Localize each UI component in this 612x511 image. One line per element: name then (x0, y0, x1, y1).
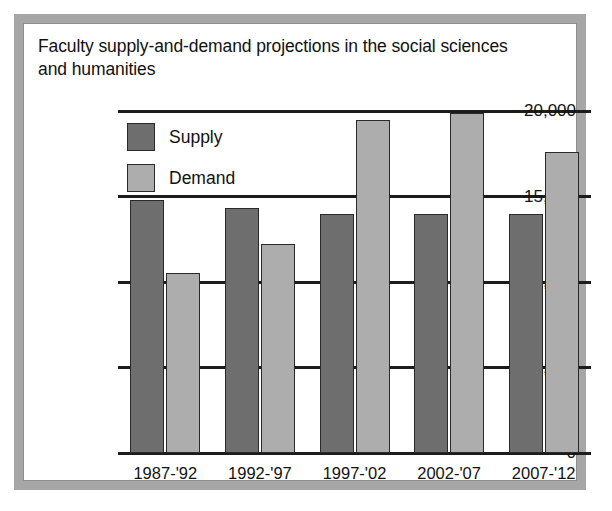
bar-demand-0 (166, 273, 200, 453)
x-axis-tick-label: 2002-'07 (417, 464, 481, 483)
legend-label-demand: Demand (169, 168, 235, 189)
legend-swatch-demand (127, 164, 155, 192)
bar-supply-4 (509, 214, 543, 453)
y-axis-tick-label: 20,000 (494, 101, 576, 121)
chart-legend: SupplyDemand (127, 123, 235, 205)
legend-item-supply: Supply (127, 123, 235, 151)
plot-area: 05,00010,00015,00020,000 1987-'921992-'9… (24, 24, 576, 480)
x-axis-tick-label: 1997-'02 (323, 464, 387, 483)
x-axis-tick-label: 2007-'12 (512, 464, 576, 483)
legend-label-supply: Supply (169, 127, 223, 148)
bar-demand-2 (356, 120, 390, 453)
bar-supply-0 (130, 200, 164, 453)
bar-demand-1 (261, 244, 295, 453)
bar-demand-4 (545, 152, 579, 453)
bar-supply-2 (320, 214, 354, 453)
bar-supply-3 (414, 214, 448, 453)
figure-frame: Faculty supply-and-demand projections in… (14, 14, 586, 490)
bar-supply-1 (225, 208, 259, 453)
legend-item-demand: Demand (127, 164, 235, 192)
x-axis-tick-label: 1992-'97 (228, 464, 292, 483)
figure-inner-border: Faculty supply-and-demand projections in… (23, 23, 577, 481)
bar-demand-3 (450, 113, 484, 453)
legend-swatch-supply (127, 123, 155, 151)
x-axis-tick-label: 1987-'92 (133, 464, 197, 483)
